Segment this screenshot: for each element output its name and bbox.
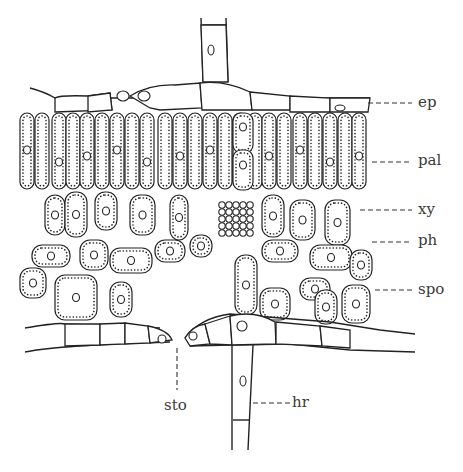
xylem-vessel <box>219 209 225 215</box>
label-ph: ph <box>418 233 437 248</box>
xylem-vessel <box>240 202 246 208</box>
cell <box>262 113 276 189</box>
label-pal: pal <box>418 153 441 168</box>
label-hr: hr <box>292 395 309 410</box>
nucleus <box>24 146 31 154</box>
nucleus <box>56 158 63 166</box>
nucleus <box>118 296 125 304</box>
nucleus <box>299 216 306 224</box>
xylem-vessel <box>240 230 246 236</box>
upper-hair <box>201 18 228 82</box>
nucleus <box>323 303 330 311</box>
nucleus <box>73 294 80 302</box>
cell <box>52 113 66 189</box>
cell <box>338 113 352 189</box>
label-sto: sto <box>164 398 187 413</box>
nucleus <box>297 146 304 154</box>
cell <box>95 113 109 189</box>
nucleus <box>167 247 174 255</box>
xylem-vessel <box>247 202 253 208</box>
xylem-vessel <box>240 209 246 215</box>
cell <box>158 113 172 189</box>
lower-hair <box>232 345 253 450</box>
nucleus <box>128 257 135 265</box>
nucleus <box>198 242 205 250</box>
nucleus <box>91 251 98 259</box>
nucleus <box>176 214 183 222</box>
label-spo: spo <box>418 282 444 297</box>
xylem-vessel <box>233 230 239 236</box>
cell <box>173 113 187 189</box>
cell <box>277 113 291 189</box>
nucleus <box>73 211 80 219</box>
nucleus <box>334 219 341 227</box>
palisade-layer <box>20 113 366 190</box>
xylem-vessel <box>219 202 225 208</box>
xylem-vessel <box>226 202 232 208</box>
cell <box>80 113 94 189</box>
nucleus <box>103 207 110 215</box>
cell <box>323 113 337 189</box>
xylem-vessel <box>247 216 253 222</box>
nucleus <box>327 158 334 166</box>
nucleus <box>312 285 319 293</box>
xylem-vessel <box>240 216 246 222</box>
nucleus <box>52 211 59 219</box>
nucleus <box>177 152 184 160</box>
cell <box>66 113 80 189</box>
cell <box>35 113 49 189</box>
nucleus <box>240 123 247 131</box>
xylem-vessel <box>247 223 253 229</box>
cell <box>218 113 232 189</box>
nucleus <box>48 252 55 260</box>
label-ep: ep <box>418 95 436 110</box>
xylem-vessel <box>226 209 232 215</box>
nucleus <box>353 300 360 308</box>
xylem-vessel <box>233 202 239 208</box>
cell <box>188 113 202 189</box>
nucleus <box>243 281 250 289</box>
nucleus <box>207 146 214 154</box>
xylem-vessel <box>233 223 239 229</box>
xylem-vessel <box>233 209 239 215</box>
nucleus <box>272 300 279 308</box>
xylem-vessel <box>233 216 239 222</box>
nucleus <box>277 247 284 255</box>
nucleus <box>358 261 365 269</box>
xylem-vessel <box>226 230 232 236</box>
nucleus <box>328 254 335 262</box>
upper-epidermis <box>30 82 370 112</box>
nucleus <box>30 279 37 287</box>
cell <box>140 113 154 189</box>
nucleus <box>270 212 277 220</box>
spongy-mesophyll <box>20 192 372 324</box>
xylem-vessel <box>219 216 225 222</box>
cell <box>352 113 366 189</box>
cell <box>308 113 322 189</box>
xylem-vessel <box>247 230 253 236</box>
nucleus <box>356 152 363 160</box>
nucleus <box>266 152 273 160</box>
nucleus <box>114 146 121 154</box>
xylem-vessel <box>219 223 225 229</box>
nucleus <box>240 161 247 169</box>
cell <box>125 113 139 189</box>
nucleus <box>84 152 91 160</box>
xylem-vessel <box>240 223 246 229</box>
vascular-bundle <box>219 202 253 236</box>
xylem-vessel <box>226 216 232 222</box>
xylem-vessel <box>219 230 225 236</box>
leaf-cross-section-diagram <box>0 0 463 472</box>
label-xy: xy <box>418 202 435 217</box>
nucleus <box>139 211 146 219</box>
xylem-vessel <box>226 223 232 229</box>
xylem-vessel <box>247 209 253 215</box>
nucleus <box>144 158 151 166</box>
